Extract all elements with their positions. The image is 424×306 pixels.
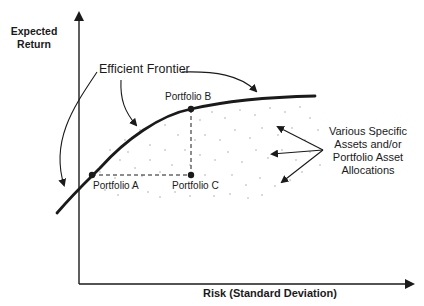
portfolio-c-label: Portfolio C <box>172 180 219 191</box>
arrow-ef-right <box>182 72 256 91</box>
y-axis-title: Expected Return <box>2 25 66 51</box>
region-label: Various Specific Assets and/or Portfolio… <box>328 125 408 177</box>
x-axis-title: Risk (Standard Deviation) <box>203 287 337 299</box>
y-axis-title-line1: Expected <box>2 25 66 38</box>
region-label-line1: Various Specific <box>328 125 408 138</box>
point-portfolio-a <box>89 172 95 178</box>
point-portfolio-c <box>188 172 194 178</box>
arrow-region-lower <box>282 150 323 182</box>
efficient-frontier-label: Efficient Frontier <box>99 62 190 76</box>
arrow-region-upper <box>278 127 323 150</box>
arrow-region-middle <box>272 150 323 154</box>
arrow-ef-middle <box>121 80 136 125</box>
y-axis-title-line2: Return <box>2 38 66 51</box>
region-label-line2: Assets and/or <box>328 138 408 151</box>
region-label-line3: Portfolio Asset <box>328 151 408 164</box>
point-portfolio-b <box>188 106 194 112</box>
portfolio-a-label: Portfolio A <box>93 180 139 191</box>
portfolio-b-label: Portfolio B <box>165 91 211 102</box>
region-label-line4: Allocations <box>328 164 408 177</box>
efficient-frontier-curve <box>57 96 315 213</box>
